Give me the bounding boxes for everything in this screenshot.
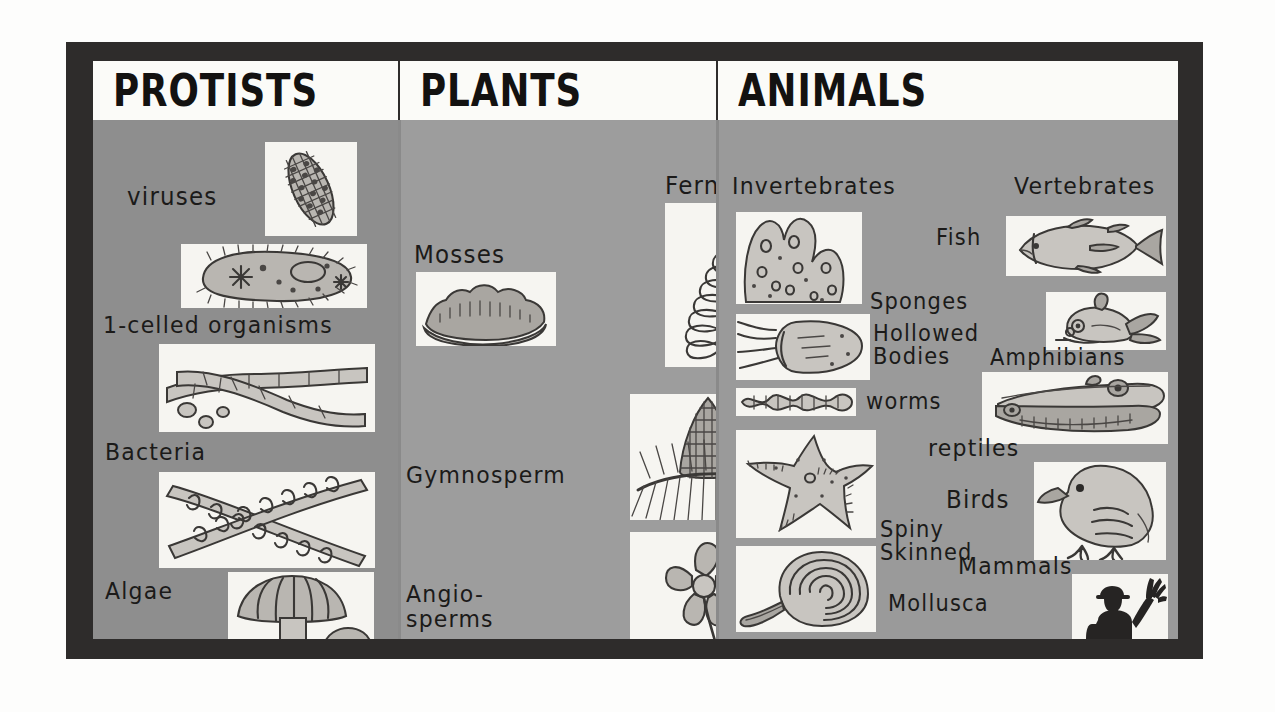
frog-drawing bbox=[1046, 292, 1166, 350]
label-invertebrates: Invertebrates bbox=[732, 174, 896, 198]
worm-drawing bbox=[736, 388, 856, 416]
column-plants: Ferns bbox=[400, 120, 718, 639]
pinecone-drawing bbox=[630, 394, 718, 520]
header-title-protists: PROTISTS bbox=[113, 65, 318, 117]
label-vertebrates: Vertebrates bbox=[1014, 174, 1155, 198]
header-cell-plants: PLANTS bbox=[400, 61, 718, 120]
label-sponges: Sponges bbox=[870, 290, 968, 313]
column-divider-plants-animals bbox=[716, 120, 719, 639]
bird-drawing bbox=[1034, 462, 1166, 560]
label-bacteria: Bacteria bbox=[105, 440, 206, 464]
label-reptiles: reptiles bbox=[928, 436, 1020, 460]
moss-drawing bbox=[416, 272, 556, 346]
jellyfish-drawing bbox=[736, 314, 870, 380]
starfish-drawing bbox=[736, 430, 876, 538]
label-algae: Algae bbox=[105, 579, 173, 603]
header-cell-protists: PROTISTS bbox=[93, 61, 400, 120]
header-cell-animals: ANIMALS bbox=[718, 61, 1178, 120]
crocodile-drawing bbox=[982, 372, 1168, 444]
label-ferns: Ferns bbox=[665, 173, 718, 199]
mushroom-drawing bbox=[228, 572, 374, 639]
label-1-celled-organisms: 1-celled organisms bbox=[103, 313, 333, 337]
label-viruses: viruses bbox=[127, 184, 218, 210]
snail-drawing bbox=[736, 546, 876, 632]
label-hollowed-bodies: Hollowed Bodies bbox=[873, 322, 979, 369]
label-worms: worms bbox=[866, 390, 942, 413]
label-fish: Fish bbox=[936, 226, 981, 249]
label-amphibians: Amphibians bbox=[990, 346, 1126, 369]
label-mammals: Mammals bbox=[958, 554, 1073, 578]
virus-drawing bbox=[265, 142, 357, 236]
label-gymnosperm: Gymnosperm bbox=[406, 463, 566, 487]
paramecium-drawing bbox=[181, 244, 367, 308]
header-title-animals: ANIMALS bbox=[738, 65, 927, 117]
column-header-band: PROTISTS PLANTS ANIMALS bbox=[93, 61, 1178, 120]
column-animals: Invertebrates Vertebrates bbox=[718, 120, 1178, 639]
poster-inner-board: PROTISTS PLANTS ANIMALS viruses bbox=[93, 61, 1178, 639]
column-protists: viruses bbox=[93, 120, 400, 639]
label-mosses: Mosses bbox=[414, 242, 505, 268]
header-title-plants: PLANTS bbox=[420, 65, 582, 117]
label-mollusca: Mollusca bbox=[888, 592, 989, 615]
fern-frond-drawing bbox=[665, 203, 718, 367]
flower-drawing bbox=[630, 532, 718, 639]
sponge-drawing bbox=[736, 212, 862, 304]
fish-drawing bbox=[1006, 216, 1166, 276]
column-divider-protists-plants bbox=[398, 120, 401, 639]
algae-filament-drawing bbox=[159, 472, 375, 568]
human-drawing bbox=[1072, 574, 1168, 639]
label-birds: Birds bbox=[946, 487, 1010, 513]
bacteria-drawing bbox=[159, 344, 375, 432]
classification-poster: PROTISTS PLANTS ANIMALS viruses bbox=[66, 42, 1203, 659]
label-angiosperms: Angio- sperms bbox=[406, 582, 494, 631]
